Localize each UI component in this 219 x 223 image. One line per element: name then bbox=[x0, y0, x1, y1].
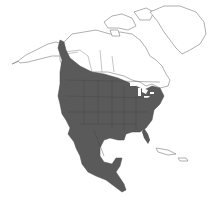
hispaniola-outline bbox=[178, 158, 188, 161]
arctic-island-outline-3 bbox=[110, 30, 120, 36]
range-map bbox=[0, 0, 219, 223]
aleutian-outline bbox=[12, 61, 18, 64]
north-america-map bbox=[0, 0, 219, 223]
arctic-island-outline bbox=[104, 14, 136, 30]
alaska-outline bbox=[18, 42, 64, 63]
florida-range bbox=[142, 128, 150, 144]
greenland-outline bbox=[150, 6, 206, 54]
arctic-island-outline-2 bbox=[134, 8, 154, 20]
cuba-outline bbox=[156, 148, 176, 155]
